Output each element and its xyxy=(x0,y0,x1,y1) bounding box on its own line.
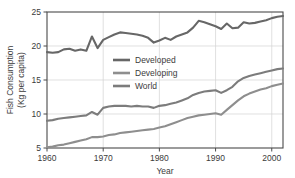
chart-canvas: 51015202519601970198019902000YearFish Co… xyxy=(0,0,295,178)
fish-consumption-line-chart: 51015202519601970198019902000YearFish Co… xyxy=(0,0,295,178)
y-tick-label: 15 xyxy=(32,75,42,85)
x-tick-label: 1960 xyxy=(38,153,57,163)
x-axis-title: Year xyxy=(156,166,173,176)
y-tick-label: 10 xyxy=(32,109,42,119)
legend-label-developed: Developed xyxy=(135,55,176,65)
y-tick-label: 5 xyxy=(36,143,41,153)
x-tick-label: 2000 xyxy=(262,153,281,163)
y-tick-label: 20 xyxy=(32,41,42,51)
legend-label-world: World xyxy=(135,81,157,91)
x-tick-label: 1990 xyxy=(206,153,225,163)
legend-label-developing: Developing xyxy=(135,68,178,78)
y-axis-title-line2: (Kg per capita) xyxy=(16,52,26,108)
series-line-developed xyxy=(47,16,283,53)
x-tick-label: 1980 xyxy=(150,153,169,163)
x-tick-label: 1970 xyxy=(94,153,113,163)
y-axis-title-line1: Fish Consumption xyxy=(5,45,15,114)
y-tick-label: 25 xyxy=(32,7,42,17)
